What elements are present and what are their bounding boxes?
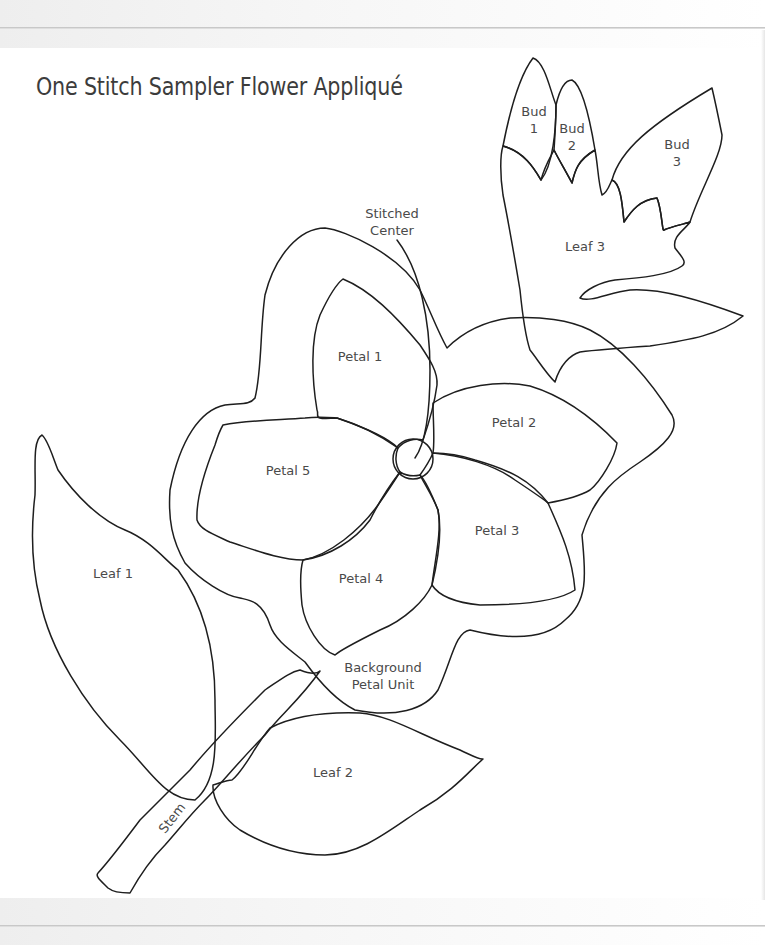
label-bud-3: Bud 3 bbox=[664, 136, 689, 170]
stitched-center-circle bbox=[393, 439, 433, 479]
label-petal-4: Petal 4 bbox=[339, 570, 383, 587]
flower-applique-pattern bbox=[0, 0, 765, 945]
leaf-1-outline bbox=[33, 435, 216, 800]
label-petal-3: Petal 3 bbox=[475, 522, 519, 539]
label-petal-5: Petal 5 bbox=[266, 462, 310, 479]
label-bud-2: Bud 2 bbox=[559, 120, 584, 154]
label-bud-1: Bud 1 bbox=[521, 103, 546, 137]
stitched-center-pointer bbox=[397, 240, 430, 458]
label-petal-1: Petal 1 bbox=[338, 348, 382, 365]
petal-2-outline bbox=[433, 384, 617, 503]
label-petal-2: Petal 2 bbox=[492, 414, 536, 431]
label-stitched-center: Stitched Center bbox=[365, 205, 419, 239]
petal-5-outline bbox=[197, 417, 400, 560]
label-leaf-1: Leaf 1 bbox=[93, 565, 133, 582]
label-leaf-2: Leaf 2 bbox=[313, 764, 353, 781]
label-leaf-3: Leaf 3 bbox=[565, 238, 605, 255]
petal-4-outline bbox=[301, 472, 440, 655]
label-background-petal-unit: Background Petal Unit bbox=[344, 659, 422, 693]
leaf-2-outline bbox=[213, 713, 483, 855]
background-petal-unit-outline bbox=[170, 228, 675, 713]
